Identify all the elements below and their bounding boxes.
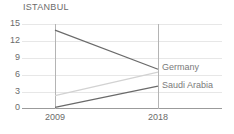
series-line-unlabeled xyxy=(55,72,158,96)
series-line-saudi-arabia xyxy=(55,86,158,107)
series-label-germany: Germany xyxy=(162,62,199,72)
series-line-germany xyxy=(55,30,158,69)
plot-area: 15 12 9 6 3 0 2009 2018 Germany Saudi Ar… xyxy=(0,0,234,134)
chart-container: ISTANBUL 15 12 9 6 3 0 2009 2018 xyxy=(0,0,234,134)
series-label-saudi-arabia: Saudi Arabia xyxy=(162,80,213,90)
